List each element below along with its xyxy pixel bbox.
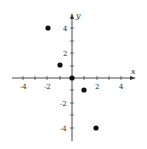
- y-axis-arrow-icon: [70, 13, 74, 19]
- y-tick-label: -4: [60, 125, 67, 133]
- scatter-plot: -4 -2 2 4 4 2 -2 -4 x y: [0, 0, 147, 149]
- data-point: [45, 25, 50, 30]
- data-point: [93, 125, 98, 130]
- data-point: [57, 62, 62, 67]
- x-tick-label: -2: [44, 83, 51, 91]
- x-axis-label: x: [131, 67, 136, 76]
- y-tick-label: 4: [63, 25, 68, 33]
- x-axis-arrow-icon: [130, 76, 136, 80]
- data-point: [69, 75, 74, 80]
- x-tick-label: 4: [119, 83, 124, 91]
- y-tick-label: 2: [63, 50, 67, 58]
- x-tick-label: -4: [20, 83, 27, 91]
- y-axis-label: y: [75, 11, 81, 20]
- data-point: [81, 87, 86, 92]
- y-tick-label: -2: [60, 100, 67, 108]
- x-tick-label: 2: [95, 83, 99, 91]
